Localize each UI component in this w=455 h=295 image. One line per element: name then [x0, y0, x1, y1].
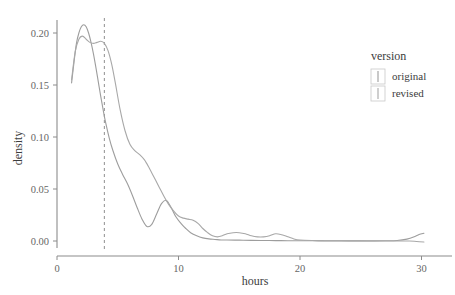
legend-entry-label: revised — [392, 87, 424, 99]
plot-canvas: 0.000.050.100.150.20 0102030 hours densi… — [0, 0, 455, 295]
x-tick-label: 0 — [54, 263, 59, 274]
legend-entry[interactable]: original — [371, 69, 426, 84]
legend: version originalrevised — [371, 49, 426, 101]
x-tick-label: 10 — [173, 263, 184, 274]
x-tick-label: 20 — [295, 263, 306, 274]
density-plot-figure: 0.000.050.100.150.20 0102030 hours densi… — [0, 0, 455, 295]
y-axis-group: 0.000.050.100.150.20 — [31, 20, 57, 248]
y-tick-label: 0.05 — [31, 184, 49, 195]
y-tick-group: 0.000.050.100.150.20 — [31, 28, 57, 247]
y-tick-label: 0.10 — [31, 132, 49, 143]
legend-title: version — [371, 49, 406, 63]
y-tick-label: 0.00 — [31, 236, 49, 247]
y-tick-label: 0.15 — [31, 80, 49, 91]
density-curve-revised — [72, 36, 424, 242]
y-axis-title: density — [11, 131, 25, 166]
x-axis-group: 0102030 — [54, 256, 452, 274]
legend-entry-label: original — [392, 70, 426, 82]
x-tick-label: 30 — [416, 263, 427, 274]
y-tick-label: 0.20 — [31, 28, 49, 39]
legend-entries: originalrevised — [371, 69, 426, 101]
x-tick-group: 0102030 — [54, 256, 426, 274]
x-axis-title: hours — [242, 274, 269, 288]
legend-entry[interactable]: revised — [371, 86, 424, 101]
